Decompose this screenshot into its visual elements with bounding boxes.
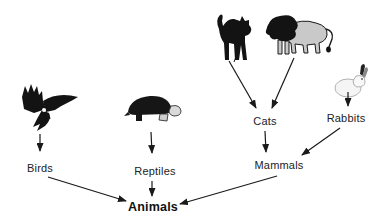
taxonomy-diagram: Birds Reptiles Cats Rabbits Mammals Anim… xyxy=(0,0,385,221)
animals-label: Animals xyxy=(128,200,178,214)
birds-label: Birds xyxy=(27,162,53,174)
eagle-image xyxy=(12,83,80,135)
reptiles-label: Reptiles xyxy=(134,165,175,177)
rabbits-label: Rabbits xyxy=(327,112,366,124)
mammals-label: Mammals xyxy=(254,159,303,171)
arrow-cat-image-to-cats xyxy=(229,61,256,108)
arrow-birds-to-animals xyxy=(48,177,126,201)
arrow-turtle-image-to-reptiles xyxy=(151,132,152,153)
arrow-mammals-to-animals xyxy=(180,176,277,204)
cat-image xyxy=(214,12,252,64)
arrow-rabbits-to-mammals xyxy=(302,128,340,155)
lion-image xyxy=(264,14,338,57)
rabbit-image xyxy=(334,62,372,100)
cats-label: Cats xyxy=(253,115,276,127)
arrow-lion-image-to-cats xyxy=(272,58,294,108)
turtle-image xyxy=(123,91,185,124)
arrow-cats-to-mammals xyxy=(265,131,266,152)
